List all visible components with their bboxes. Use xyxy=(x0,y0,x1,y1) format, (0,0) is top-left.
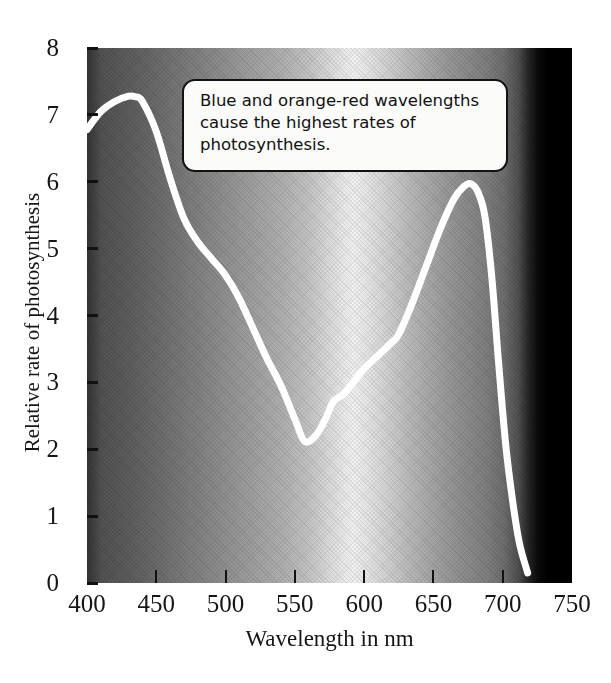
x-tick-label-650: 650 xyxy=(398,591,468,616)
callout-text: Blue and orange-red wavelengths cause th… xyxy=(200,90,492,156)
y-tick-label-2: 2 xyxy=(33,436,59,461)
y-tick-4 xyxy=(87,314,98,317)
y-tick-0 xyxy=(87,582,98,585)
x-tick-550 xyxy=(294,570,296,583)
x-tick-label-400: 400 xyxy=(52,591,122,616)
y-tick-2 xyxy=(87,448,98,451)
y-tick-label-8: 8 xyxy=(33,35,59,60)
y-tick-7 xyxy=(87,113,98,116)
callout-box: Blue and orange-red wavelengths cause th… xyxy=(182,79,508,172)
y-tick-6 xyxy=(87,180,98,183)
x-tick-label-600: 600 xyxy=(329,591,399,616)
y-tick-label-5: 5 xyxy=(33,236,59,261)
y-tick-8 xyxy=(87,47,98,50)
y-tick-label-1: 1 xyxy=(33,503,59,528)
x-tick-label-700: 700 xyxy=(468,591,538,616)
x-tick-450 xyxy=(155,570,157,583)
y-tick-label-6: 6 xyxy=(33,169,59,194)
x-tick-500 xyxy=(225,570,227,583)
y-tick-3 xyxy=(87,381,98,384)
y-tick-5 xyxy=(87,247,98,250)
y-tick-1 xyxy=(87,515,98,518)
x-axis-title: Wavelength in nm xyxy=(87,626,572,652)
x-tick-label-550: 550 xyxy=(260,591,330,616)
x-tick-label-750: 750 xyxy=(537,591,607,616)
x-tick-700 xyxy=(502,570,504,583)
x-tick-600 xyxy=(363,570,365,583)
y-tick-label-7: 7 xyxy=(33,102,59,127)
x-tick-label-450: 450 xyxy=(121,591,191,616)
x-tick-650 xyxy=(432,570,434,583)
y-tick-label-3: 3 xyxy=(33,369,59,394)
y-tick-label-4: 4 xyxy=(33,303,59,328)
action-spectrum-figure: Blue and orange-red wavelengths cause th… xyxy=(0,0,611,683)
x-tick-label-500: 500 xyxy=(191,591,261,616)
